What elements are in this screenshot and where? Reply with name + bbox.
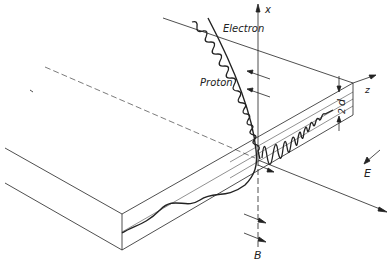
proton-channeled-oscillation [262, 110, 333, 165]
b-field-arrowhead-2 [258, 237, 266, 242]
electron-pointer-arrowhead-1 [247, 70, 253, 74]
proton-label: Proton [200, 77, 233, 88]
thickness-arrowhead-bottom [337, 116, 341, 122]
diagonal-axis-arrowhead [378, 207, 387, 212]
slab-left-bottom-edge [5, 183, 122, 250]
z-axis-arrowhead [369, 75, 376, 79]
b-field-arrowhead-1 [258, 218, 266, 223]
slab-left-top-edge [5, 148, 122, 214]
e-field-arrowhead [364, 157, 370, 164]
electron-pointer-arrowhead-2 [247, 88, 253, 92]
slab-front-bottom-edge [122, 115, 353, 250]
slab-front-top-edge [122, 83, 353, 214]
small-arrowhead [267, 168, 274, 172]
electron-pointer-arrow-1 [250, 72, 270, 79]
b-field-label: B [254, 249, 262, 262]
electron-pointer-arrow-2 [250, 90, 270, 97]
x-axis-arrowhead [256, 4, 260, 12]
tick-mark [30, 90, 33, 92]
electron-label: Electron [223, 23, 264, 34]
channeling-diagram: Electron Proton x z d 2 E B [0, 0, 389, 263]
e-field-label: E [364, 167, 371, 180]
thickness-2-label: 2 [337, 108, 347, 114]
electron-trajectory [122, 18, 257, 233]
thickness-d-label: d [335, 98, 348, 106]
x-axis-label: x [264, 4, 271, 15]
diagram-canvas: Electron Proton x z d 2 E B [0, 0, 389, 263]
thickness-arrowhead-top [337, 86, 341, 92]
z-axis-label: z [364, 85, 370, 95]
